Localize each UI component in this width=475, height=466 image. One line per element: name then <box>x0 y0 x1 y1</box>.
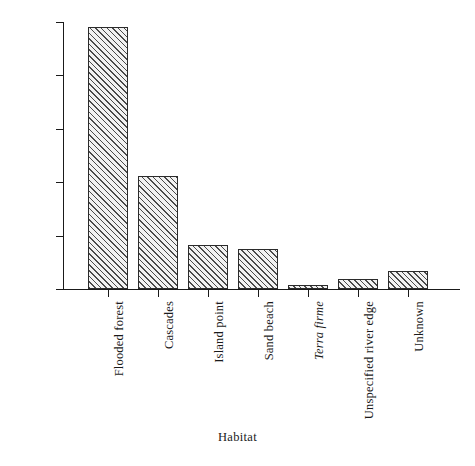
y-axis-line <box>63 22 64 290</box>
x-axis-title: Habitat <box>0 430 475 445</box>
x-axis-tick <box>408 290 409 297</box>
bar <box>238 249 278 289</box>
bar <box>88 27 128 289</box>
x-axis-category-label: Cascades <box>163 301 176 349</box>
y-axis-tick <box>56 289 63 290</box>
y-axis-tick <box>56 22 63 23</box>
x-axis-category-label: Island point <box>213 301 226 363</box>
x-axis-tick <box>208 290 209 297</box>
x-axis-line <box>63 289 460 290</box>
bar <box>188 245 228 289</box>
x-axis-tick <box>158 290 159 297</box>
x-axis-tick <box>258 290 259 297</box>
bar <box>138 176 178 289</box>
x-axis-category-label: Terra firme <box>313 301 326 360</box>
x-axis-category-label: Unknown <box>413 301 426 352</box>
y-axis-tick <box>56 129 63 130</box>
y-axis-tick <box>56 75 63 76</box>
x-axis-category-label: Sand beach <box>263 301 276 360</box>
x-axis-tick <box>358 290 359 297</box>
bar-chart: 05001000150020002500 Flooded forestCasca… <box>0 0 475 466</box>
bar <box>338 279 378 289</box>
x-axis-tick <box>308 290 309 297</box>
x-axis-tick <box>108 290 109 297</box>
bar <box>388 271 428 289</box>
x-axis-category-label: Unspecified river edge <box>363 301 376 419</box>
x-axis-category-label: Flooded forest <box>113 301 126 376</box>
y-axis-tick <box>56 236 63 237</box>
bar <box>288 285 328 289</box>
y-axis-tick <box>56 182 63 183</box>
